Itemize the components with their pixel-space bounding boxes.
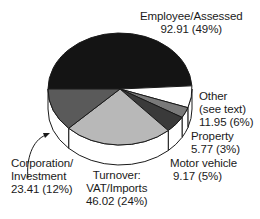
label-corporation-name: Corporation/ [11, 157, 73, 170]
label-corporation-subname: Investment [11, 170, 73, 183]
label-other: Other (see text) 11.95 (6%) [199, 90, 253, 129]
pie-top-face [48, 33, 192, 145]
label-motor-value: 9.17 (5%) [170, 170, 237, 183]
label-corporation-value: 23.41 (12%) [11, 183, 73, 196]
label-motor-vehicle: Motor vehicle 9.17 (5%) [170, 157, 237, 183]
arrowhead-icon [43, 133, 50, 138]
label-turnover: Turnover: VAT/Imports 46.02 (24%) [86, 169, 148, 208]
label-other-name: Other [199, 90, 253, 103]
label-turnover-subname: VAT/Imports [86, 182, 148, 195]
label-corporation: Corporation/ Investment 23.41 (12%) [11, 157, 73, 196]
slice-employee-assessed [48, 33, 192, 89]
label-property: Property 5.77 (3%) [191, 130, 240, 156]
label-property-name: Property [191, 130, 240, 143]
label-property-value: 5.77 (3%) [191, 143, 240, 156]
label-employee-value: 92.91 (49%) [140, 23, 243, 36]
label-other-note: (see text) [199, 103, 253, 116]
label-motor-name: Motor vehicle [170, 157, 237, 170]
label-turnover-name: Turnover: [86, 169, 148, 182]
label-other-value: 11.95 (6%) [199, 116, 253, 129]
label-employee-assessed: Employee/Assessed 92.91 (49%) [140, 10, 243, 36]
label-turnover-value: 46.02 (24%) [86, 195, 148, 208]
label-employee-name: Employee/Assessed [140, 10, 243, 23]
